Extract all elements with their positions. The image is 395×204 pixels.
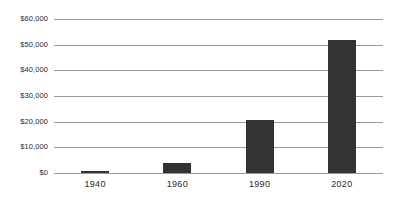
x-axis: 1940196019902020 <box>54 180 383 198</box>
bar-chart: $0$10,000$20,000$30,000$40,000$50,000$60… <box>0 0 395 204</box>
gridline <box>54 173 383 174</box>
y-tick-label: $0 <box>0 169 48 177</box>
x-tick-label: 1940 <box>85 180 106 189</box>
y-tick-label: $40,000 <box>0 67 48 75</box>
x-tick-label: 1960 <box>167 180 188 189</box>
y-tick-label: $30,000 <box>0 92 48 100</box>
x-tick-label: 2020 <box>331 180 352 189</box>
y-tick-label: $60,000 <box>0 15 48 23</box>
y-axis: $0$10,000$20,000$30,000$40,000$50,000$60… <box>0 0 48 204</box>
y-tick-label: $20,000 <box>0 118 48 126</box>
x-tick-label: 1990 <box>249 180 270 189</box>
bar-1940 <box>81 171 109 173</box>
bar-1990 <box>246 120 274 173</box>
y-tick-label: $10,000 <box>0 144 48 152</box>
bar-2020 <box>328 40 356 173</box>
gridline <box>54 19 383 20</box>
bar-1960 <box>163 163 191 173</box>
plot-area <box>54 19 383 173</box>
y-tick-label: $50,000 <box>0 41 48 49</box>
